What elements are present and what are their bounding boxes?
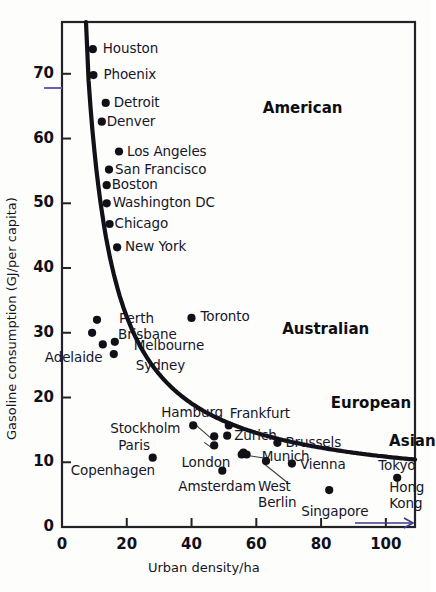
city-label-line: Hong	[389, 479, 424, 495]
y-tick-label: 20	[26, 388, 54, 406]
city-label: Vienna	[300, 456, 346, 472]
data-point	[189, 421, 197, 429]
data-point	[115, 147, 123, 155]
group-label-american: American	[263, 99, 343, 117]
y-tick-label: 40	[26, 258, 54, 276]
data-point	[110, 350, 118, 358]
city-label: Chicago	[115, 215, 169, 231]
data-point	[102, 99, 110, 107]
city-label: Sydney	[136, 357, 185, 373]
city-label: Singapore	[301, 503, 368, 519]
data-point	[325, 486, 333, 494]
city-label: New York	[125, 238, 186, 254]
group-label-european: European	[331, 394, 411, 412]
city-label-line: Kong	[389, 495, 424, 511]
city-label: WestBerlin	[258, 478, 297, 510]
city-label: Detroit	[114, 94, 160, 110]
y-tick-label: 10	[26, 452, 54, 470]
leader-line	[196, 425, 211, 438]
y-tick-label: 0	[26, 517, 54, 535]
data-point	[106, 220, 114, 228]
group-label-asian: Asian	[389, 432, 435, 450]
city-label: Zurich	[234, 427, 276, 443]
city-label: Perth	[119, 310, 154, 326]
city-label: HongKong	[389, 479, 424, 511]
data-point	[99, 340, 107, 348]
city-label: Phoenix	[103, 66, 156, 82]
city-label: Los Angeles	[127, 143, 207, 159]
x-tick-label: 20	[107, 535, 147, 553]
city-label: Melbourne	[134, 337, 204, 353]
data-point	[89, 45, 97, 53]
x-tick-label: 100	[366, 535, 406, 553]
city-label: Frankfurt	[230, 405, 290, 421]
city-label: London	[181, 454, 230, 470]
data-point	[103, 199, 111, 207]
city-label: Paris	[118, 437, 150, 453]
group-label-australian: Australian	[282, 320, 369, 338]
y-tick-label: 70	[26, 64, 54, 82]
city-label-line: West	[258, 478, 297, 494]
city-label: Washington DC	[113, 194, 215, 210]
data-point	[187, 314, 195, 322]
city-label: Stockholm	[110, 420, 180, 436]
y-tick-label: 30	[26, 323, 54, 341]
data-point	[103, 181, 111, 189]
city-label: Hamburg	[161, 404, 223, 420]
data-point	[210, 432, 218, 440]
x-tick-label: 80	[301, 535, 341, 553]
y-tick-label: 60	[26, 129, 54, 147]
city-label: Adelaide	[45, 349, 103, 365]
data-point	[239, 448, 247, 456]
city-label: Tokyo	[378, 457, 415, 473]
city-label: Copenhagen	[71, 462, 155, 478]
data-point	[210, 441, 218, 449]
data-point	[93, 316, 101, 324]
y-axis-title: Gasoline consumption (GJ/per capita)	[4, 197, 19, 440]
x-axis-title: Urban density/ha	[148, 560, 260, 575]
city-label: Toronto	[201, 308, 250, 324]
data-point	[98, 118, 106, 126]
data-point	[88, 329, 96, 337]
y-tick-label: 50	[26, 193, 54, 211]
x-tick-label: 60	[236, 535, 276, 553]
city-label: Boston	[112, 176, 158, 192]
city-label: Houston	[103, 40, 158, 56]
data-point	[113, 243, 121, 251]
data-point	[89, 71, 97, 79]
data-point	[105, 166, 113, 174]
x-tick-label: 40	[172, 535, 212, 553]
data-point	[149, 454, 157, 462]
city-label: San Francisco	[115, 161, 206, 177]
city-label: Amsterdam	[178, 478, 255, 494]
data-point	[223, 432, 231, 440]
x-tick-label: 0	[42, 535, 82, 553]
data-point	[225, 421, 233, 429]
city-label-line: Berlin	[258, 494, 297, 510]
city-label: Denver	[107, 113, 156, 129]
